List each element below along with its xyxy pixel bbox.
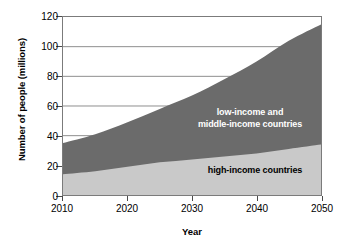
y-tick-label-80: 80 <box>47 71 58 82</box>
x-tick-label-2040: 2040 <box>246 203 268 214</box>
series-label-low-middle-income-line1: low-income and <box>180 106 320 118</box>
series-label-low-middle-income-line2: middle-income countries <box>180 118 320 130</box>
x-tick-mark-2050 <box>322 196 323 201</box>
y-tick-label-120: 120 <box>41 11 58 22</box>
x-tick-label-2050: 2050 <box>311 203 333 214</box>
y-tick-label-0: 0 <box>52 191 58 202</box>
series-label-low-middle-income: low-income and middle-income countries <box>180 106 320 130</box>
x-tick-mark-2010 <box>62 196 63 201</box>
y-axis-title: Number of people (millions) <box>16 5 27 195</box>
y-tick-label-60: 60 <box>47 101 58 112</box>
y-tick-label-20: 20 <box>47 161 58 172</box>
x-tick-mark-2030 <box>192 196 193 201</box>
series-label-high-income: high-income countries <box>190 165 320 175</box>
x-tick-label-2030: 2030 <box>181 203 203 214</box>
y-tick-label-40: 40 <box>47 131 58 142</box>
y-tick-label-100: 100 <box>41 41 58 52</box>
x-tick-mark-2020 <box>127 196 128 201</box>
chart-figure: Number of people (millions) 020406080100… <box>0 0 342 249</box>
x-axis-title: Year <box>62 226 322 237</box>
x-tick-label-2020: 2020 <box>116 203 138 214</box>
x-tick-mark-2040 <box>257 196 258 201</box>
x-tick-label-2010: 2010 <box>51 203 73 214</box>
